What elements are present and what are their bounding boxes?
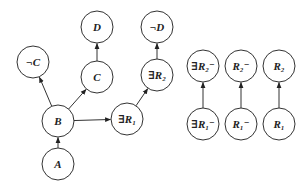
diagram-canvas: ¬CDC¬D∃R₂B∃R₁A∃R₂⁻R₂⁻R₂∃R₁⁻R₁⁻R₁ xyxy=(0,0,308,189)
node-existsR2inv: ∃R₂⁻ xyxy=(187,50,219,82)
arrow-icon xyxy=(136,89,148,106)
node-label: A xyxy=(53,158,61,170)
node-R2: R₂ xyxy=(263,50,295,82)
node-negD: ¬D xyxy=(141,11,173,43)
edge-existsR1-to-existsR2 xyxy=(136,89,148,106)
node-A: A xyxy=(42,148,74,180)
edge-B-to-negC xyxy=(39,77,51,106)
node-R1: R₁ xyxy=(263,108,295,140)
node-label: ∃R₂⁻ xyxy=(191,60,215,72)
node-label: ¬C xyxy=(26,56,41,68)
node-existsR1: ∃R₁ xyxy=(111,103,143,135)
node-B: B xyxy=(42,105,74,137)
edge-B-to-existsR1 xyxy=(74,119,111,120)
node-label: ∃R₂ xyxy=(148,69,166,81)
node-label: ∃R₁ xyxy=(118,113,136,125)
node-label: R₁ xyxy=(272,118,284,130)
node-label: B xyxy=(53,115,61,127)
arrow-icon xyxy=(69,89,86,109)
arrow-icon xyxy=(74,119,111,120)
node-existsR1inv: ∃R₁⁻ xyxy=(187,108,219,140)
node-label: R₁⁻ xyxy=(232,118,250,130)
node-D: D xyxy=(81,11,113,43)
node-negC: ¬C xyxy=(17,46,49,78)
node-label: ¬D xyxy=(150,21,165,33)
node-label: R₂ xyxy=(272,60,284,72)
node-R1inv: R₁⁻ xyxy=(225,108,257,140)
node-C: C xyxy=(81,61,113,93)
node-label: C xyxy=(93,71,101,83)
arrow-icon xyxy=(39,77,51,106)
node-label: ∃R₁⁻ xyxy=(191,118,215,130)
node-label: D xyxy=(92,21,101,33)
edge-B-to-C xyxy=(69,89,86,109)
node-label: R₂⁻ xyxy=(232,60,250,72)
nodes-group: ¬CDC¬D∃R₂B∃R₁A∃R₂⁻R₂⁻R₂∃R₁⁻R₁⁻R₁ xyxy=(17,11,295,180)
graph-svg: ¬CDC¬D∃R₂B∃R₁A∃R₂⁻R₂⁻R₂∃R₁⁻R₁⁻R₁ xyxy=(0,0,308,189)
node-existsR2: ∃R₂ xyxy=(141,59,173,91)
node-R2inv: R₂⁻ xyxy=(225,50,257,82)
